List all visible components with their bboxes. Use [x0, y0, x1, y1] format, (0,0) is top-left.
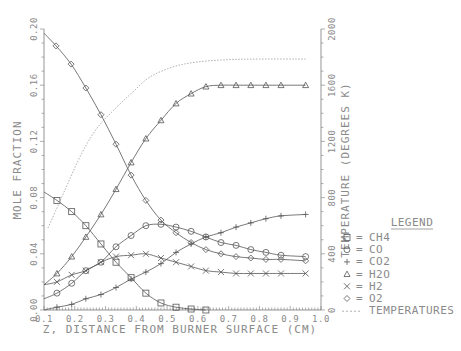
legend-entry-o2: =O2 — [344, 292, 383, 305]
series-h2 — [44, 251, 309, 285]
legend-symbol — [344, 271, 350, 276]
legend-label: CO — [369, 243, 383, 256]
y2-tick-label: 1200 — [327, 130, 337, 154]
y2-tick-label: 800 — [327, 189, 337, 207]
legend-equals: = — [356, 280, 363, 293]
y2-tick-label: 2000 — [327, 17, 337, 41]
data-point — [173, 249, 179, 255]
legend-entry-h2: =H2 — [344, 280, 383, 293]
data-point — [233, 224, 239, 230]
series-line — [44, 85, 306, 285]
data-point — [158, 255, 164, 261]
data-point — [69, 301, 75, 307]
data-point — [143, 269, 149, 275]
data-point — [83, 296, 89, 302]
data-point — [83, 268, 89, 274]
data-point — [263, 216, 269, 222]
data-point — [69, 272, 75, 278]
legend-label: CO2 — [369, 255, 390, 268]
legend-equals: = — [356, 292, 363, 305]
data-point — [158, 261, 164, 267]
legend-title: LEGEND — [391, 216, 434, 229]
data-point — [278, 213, 284, 219]
y-tick-label: 0.08 — [29, 186, 39, 210]
y-axis-title: MOLE FRACTION — [11, 120, 24, 219]
series-ch4 — [44, 192, 209, 313]
y-tick-label: 0.04 — [29, 242, 39, 266]
y2-tick-label: 400 — [327, 245, 337, 263]
data-point — [188, 263, 194, 269]
legend-label: CH4 — [369, 231, 390, 244]
y2-axis-title: TEMPERATURE (DEGREES K) — [339, 82, 352, 257]
legend-symbol — [344, 259, 350, 265]
data-point — [218, 230, 224, 236]
data-point — [54, 304, 60, 310]
legend-label: H2O — [369, 268, 390, 281]
legend-equals: = — [356, 268, 363, 281]
legend-label: O2 — [369, 292, 383, 305]
legend-symbol — [344, 283, 350, 289]
data-point — [54, 279, 60, 285]
y-tick-label: 0.00 — [29, 298, 39, 322]
legend-symbol — [344, 296, 350, 302]
series-co2 — [44, 211, 309, 310]
legend-equals: = — [356, 243, 363, 256]
series-line — [44, 192, 206, 310]
y-tick-label: 0.12 — [29, 130, 39, 154]
legend-label: H2 — [369, 280, 383, 293]
legend-label: TEMPERATURES — [369, 304, 454, 317]
legend-entry-temperatures: TEMPERATURES — [342, 304, 454, 317]
x-axis-title: Z, DISTANCE FROM BURNER SURFACE (CM) — [43, 323, 317, 336]
axes: 0.10.20.30.40.50.60.70.80.91.00.000.040.… — [29, 17, 337, 324]
data-point — [173, 259, 179, 265]
legend-entry-h2o: =H2O — [344, 268, 390, 281]
data-point — [303, 211, 309, 217]
chart: 0.10.20.30.40.50.60.70.80.91.00.000.040.… — [0, 0, 461, 351]
legend-equals: = — [356, 231, 363, 244]
legend: LEGEND =CH4=CO=CO2=H2O=H2=O2TEMPERATURES — [342, 216, 454, 317]
y2-tick-label: 0 — [327, 307, 337, 313]
data-point — [113, 285, 119, 291]
data-point — [248, 220, 254, 226]
data-point — [98, 259, 104, 265]
y-tick-label: 0.20 — [29, 17, 39, 41]
series-layer — [44, 33, 309, 313]
y2-tick-label: 1600 — [327, 73, 337, 97]
y-tick-label: 0.16 — [29, 73, 39, 97]
data-point — [98, 292, 104, 298]
legend-equals: = — [356, 255, 363, 268]
data-point — [128, 276, 134, 282]
series-o2 — [44, 33, 309, 264]
